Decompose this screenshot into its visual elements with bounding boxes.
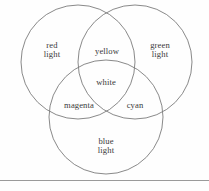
- circle-blue-light: [49, 60, 163, 174]
- additive-colour-venn-figure: red light green light blue light yellow …: [0, 0, 209, 191]
- venn-diagram-graphic: [0, 0, 209, 191]
